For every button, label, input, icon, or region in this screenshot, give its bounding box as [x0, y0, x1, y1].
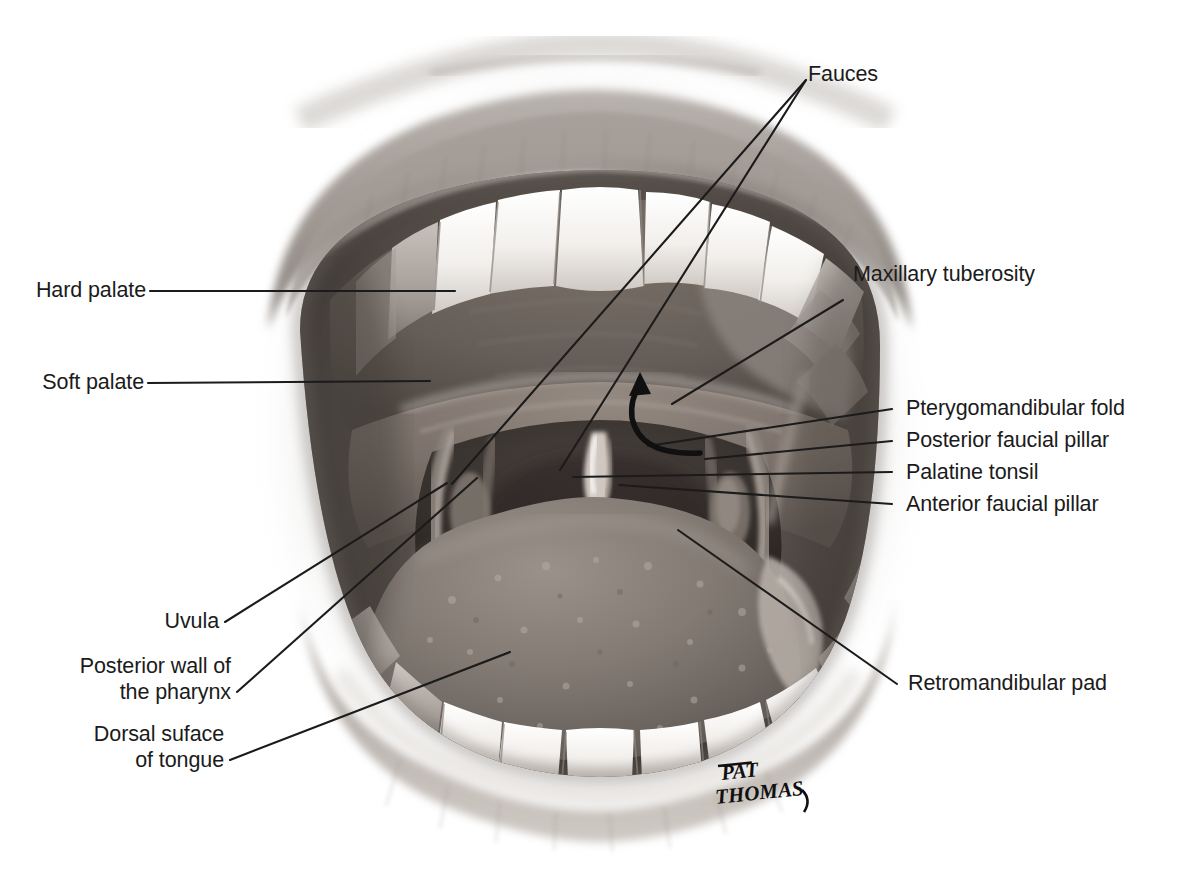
label-soft-palate: Soft palate — [0, 370, 144, 396]
label-fauces: Fauces — [808, 62, 878, 88]
label-pterygomandibular-fold: Pterygomandibular fold — [906, 396, 1125, 422]
label-posterior-wall: Posterior wall ofthe pharynx — [0, 654, 231, 705]
label-posterior-faucial-pillar: Posterior faucial pillar — [906, 428, 1109, 454]
label-hard-palate: Hard palate — [0, 278, 146, 304]
label-posterior-wall-line1: Posterior wall of — [80, 654, 231, 678]
label-anterior-faucial-pillar: Anterior faucial pillar — [906, 492, 1098, 518]
label-dorsal-tongue-line1: Dorsal suface — [94, 722, 224, 746]
label-dorsal-tongue: Dorsal sufaceof tongue — [0, 722, 224, 773]
label-retromandibular-pad: Retromandibular pad — [908, 671, 1107, 697]
label-palatine-tonsil: Palatine tonsil — [906, 460, 1038, 486]
label-dorsal-tongue-line2: of tongue — [135, 748, 224, 772]
label-posterior-wall-line2: the pharynx — [120, 680, 231, 704]
artist-signature: PAT THOMAS — [716, 756, 826, 826]
label-uvula: Uvula — [0, 609, 219, 635]
figure-canvas: Fauces Hard palate Soft palate Maxillary… — [0, 0, 1195, 869]
label-maxillary-tuberosity: Maxillary tuberosity — [853, 262, 1035, 288]
